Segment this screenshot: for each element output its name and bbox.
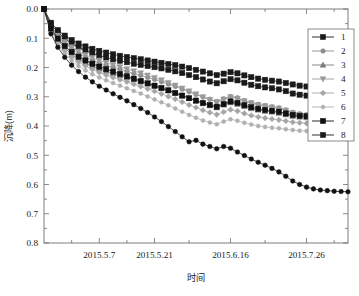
legend-label-2: 2 — [341, 46, 346, 56]
data-point-circle-filled — [187, 139, 192, 144]
data-point-square-filled — [138, 78, 143, 83]
data-point-circle-filled — [339, 189, 344, 194]
data-point-square-filled — [62, 44, 67, 49]
data-point-circle-small — [187, 113, 191, 117]
data-point-square-filled — [152, 83, 157, 88]
y-axis-title: 沉降(m) — [3, 110, 14, 142]
data-point-square-filled — [131, 56, 136, 61]
data-point-circle-filled — [304, 185, 309, 190]
data-point-circle-small — [321, 105, 325, 109]
data-point-square-filled — [228, 70, 233, 75]
data-point-square-filled — [124, 60, 129, 65]
data-point-circle-filled — [62, 55, 67, 60]
data-point-square-filled — [235, 71, 240, 76]
y-tick-label: 0.1 — [27, 34, 39, 44]
data-point-circle-small — [270, 126, 274, 130]
data-point-square-filled — [290, 112, 295, 117]
data-point-circle-filled — [201, 142, 206, 147]
x-tick-label: 2015.5.7 — [83, 250, 116, 260]
data-point-circle-small — [97, 75, 101, 79]
data-point-circle-filled — [249, 157, 254, 162]
data-point-circle-filled — [138, 106, 143, 111]
data-point-circle-small — [215, 122, 219, 126]
data-point-circle-small — [208, 120, 212, 124]
data-point-circle-small — [111, 81, 115, 85]
legend-border — [308, 29, 354, 141]
data-point-circle-filled — [270, 166, 275, 171]
data-point-square-filled — [193, 67, 198, 72]
data-point-square-filled — [69, 49, 74, 54]
data-point-square-filled — [283, 89, 288, 94]
data-point-square-filled — [235, 78, 240, 83]
data-point-circle-filled — [111, 92, 116, 97]
data-point-circle-small — [159, 100, 163, 104]
data-point-circle-filled — [166, 124, 171, 129]
data-point-square-filled — [276, 109, 281, 114]
data-point-square-filled — [124, 74, 129, 79]
data-point-circle-filled — [228, 146, 233, 151]
data-point-square-filled — [124, 54, 129, 59]
data-point-square-filled — [117, 71, 122, 76]
data-point-square-filled — [242, 103, 247, 108]
data-point-square-filled — [117, 58, 122, 63]
data-point-square-filled — [48, 20, 53, 25]
data-point-square-filled — [297, 113, 302, 118]
data-point-square-filled — [97, 48, 102, 53]
data-point-square-filled — [235, 100, 240, 105]
data-point-square-filled — [221, 101, 226, 106]
data-point-square-filled — [256, 76, 261, 81]
data-point-square-filled — [173, 69, 178, 74]
y-tick-label: 0.7 — [27, 209, 39, 219]
data-point-square-filled — [104, 55, 109, 60]
data-point-square-filled — [214, 81, 219, 86]
data-point-square-filled — [110, 69, 115, 74]
data-point-square-filled — [104, 67, 109, 72]
data-point-square-filled — [97, 64, 102, 69]
data-point-circle-filled — [83, 75, 88, 80]
data-point-circle-filled — [277, 170, 282, 175]
data-point-circle-small — [139, 92, 143, 96]
data-point-square-filled — [138, 62, 143, 67]
legend-label-1: 1 — [341, 32, 346, 42]
data-point-square-filled — [207, 102, 212, 107]
data-point-circle-small — [104, 78, 108, 82]
data-point-square-filled — [159, 85, 164, 90]
y-tick-label: 0.6 — [27, 180, 39, 190]
data-point-circle-small — [153, 97, 157, 101]
legend-label-4: 4 — [341, 74, 346, 84]
data-point-square-filled — [131, 76, 136, 81]
data-point-square-filled — [55, 27, 60, 32]
data-point-square-filled — [200, 69, 205, 74]
data-point-square-filled — [221, 79, 226, 84]
data-point-circle-small — [180, 110, 184, 114]
data-point-square-filled — [276, 87, 281, 92]
data-point-circle-filled — [180, 135, 185, 140]
data-point-square-filled — [76, 41, 81, 46]
data-point-circle-filled — [214, 147, 219, 152]
data-point-square-filled — [180, 64, 185, 69]
data-point-circle-filled — [346, 190, 351, 195]
data-point-circle-filled — [173, 129, 178, 134]
data-point-square-filled — [186, 73, 191, 78]
data-point-circle-filled — [332, 189, 337, 194]
chart-legend: 12345678 — [308, 29, 354, 141]
data-point-square-filled — [242, 73, 247, 78]
data-point-circle-small — [229, 117, 233, 121]
data-point-square-filled — [145, 81, 150, 86]
x-tick-label: 2015.7.26 — [288, 250, 325, 260]
data-point-square-filled — [276, 79, 281, 84]
data-point-square-filled — [269, 86, 274, 91]
data-point-circle-small — [125, 86, 129, 90]
data-point-circle-filled — [69, 63, 74, 68]
data-point-square-filled — [173, 90, 178, 95]
data-point-square-filled — [145, 58, 150, 63]
data-point-circle-filled — [256, 160, 261, 165]
legend-label-7: 7 — [341, 116, 346, 126]
data-point-square-filled — [166, 88, 171, 93]
data-point-square-filled — [228, 77, 233, 82]
data-point-circle-small — [118, 84, 122, 88]
data-point-square-filled — [131, 61, 136, 66]
legend-label-6: 6 — [341, 102, 346, 112]
data-point-square-filled — [249, 75, 254, 80]
data-point-circle-filled — [325, 188, 330, 193]
